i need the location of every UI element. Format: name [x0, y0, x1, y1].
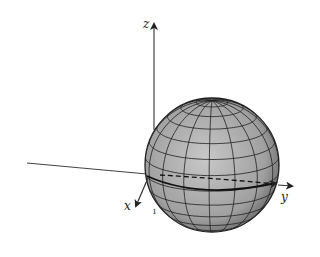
y-axis-negative — [27, 163, 147, 174]
origin-tick: ı — [153, 206, 156, 216]
x-axis — [136, 178, 148, 206]
y-axis-label: y — [280, 190, 288, 204]
z-axis-label: z — [142, 17, 150, 31]
x-axis-label: x — [124, 199, 131, 213]
sphere-diagram: z y x ı — [0, 0, 320, 257]
y-axis — [278, 185, 292, 186]
